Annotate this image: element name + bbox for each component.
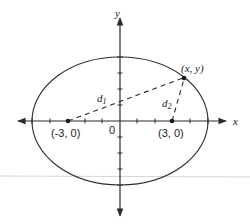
d2-label: d2 <box>162 97 172 111</box>
focus-right-point <box>170 119 175 124</box>
x-axis-label: x <box>232 115 238 127</box>
d2-line <box>172 79 184 121</box>
ellipse-point <box>182 76 187 81</box>
d1-label: d1 <box>97 92 107 106</box>
origin-label: 0 <box>109 124 115 136</box>
ellipse-diagram: y x 0 (-3, 0) (3, 0) (x, y) d1 d2 <box>0 0 250 224</box>
point-label: (x, y) <box>181 62 204 75</box>
scan-artifact-line <box>0 176 250 177</box>
y-axis-label: y <box>114 7 120 19</box>
focus-right-label: (3, 0) <box>158 127 184 139</box>
focus-left-point <box>66 119 71 124</box>
focus-left-label: (-3, 0) <box>51 127 80 139</box>
